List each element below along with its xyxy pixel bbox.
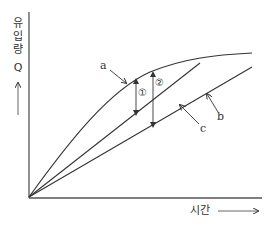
- x-axis-label: 시간: [190, 205, 210, 216]
- inflow-diagram: 유 입 량 Q a c b ① ② 시간: [0, 0, 274, 227]
- curve-a-label: a: [100, 60, 107, 71]
- y-axis-label-char-2: 입: [11, 31, 25, 42]
- y-axis-label-char-1: 유: [11, 18, 25, 29]
- label-a-pointer: [110, 70, 126, 83]
- diagram-graphics: [0, 0, 274, 227]
- marker-1-label: ①: [138, 88, 147, 98]
- y-axis-symbol: Q: [11, 62, 25, 73]
- label-c-pointer: [180, 105, 199, 124]
- curve-a: [29, 53, 252, 197]
- line-b-label: b: [217, 111, 224, 122]
- marker-2-label: ②: [155, 78, 164, 88]
- y-axis-label-char-3: 량: [11, 44, 25, 55]
- line-c: [29, 63, 200, 197]
- line-c-label: c: [200, 123, 206, 134]
